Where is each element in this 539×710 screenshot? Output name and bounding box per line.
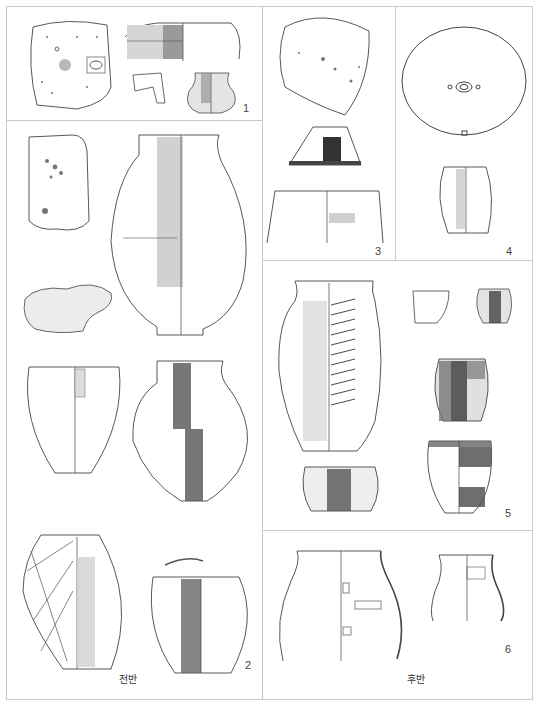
- panel-2: 2 전반: [6, 120, 263, 700]
- panel-number: 2: [245, 659, 251, 671]
- panel-4: 4: [395, 6, 533, 261]
- artifact-plate: 1: [0, 0, 539, 710]
- panel-6-drawings: [263, 531, 534, 701]
- period-label-early: 전반: [119, 671, 137, 686]
- panel-3: 3: [262, 6, 396, 261]
- panel-4-drawings: [396, 7, 534, 262]
- panel-2-drawings: [7, 121, 264, 701]
- panel-number: 6: [505, 643, 511, 655]
- panel-number: 5: [505, 507, 511, 519]
- panel-number: 1: [243, 102, 249, 114]
- panel-1-drawings: [7, 7, 264, 122]
- panel-number: 4: [506, 245, 512, 257]
- panel-6: 6 후반: [262, 530, 533, 700]
- panel-number: 3: [375, 245, 381, 257]
- panel-1: 1: [6, 6, 263, 121]
- panel-3-drawings: [263, 7, 397, 262]
- panel-5-drawings: [263, 261, 534, 532]
- panel-5: 5: [262, 260, 533, 531]
- period-label-late: 후반: [407, 671, 425, 686]
